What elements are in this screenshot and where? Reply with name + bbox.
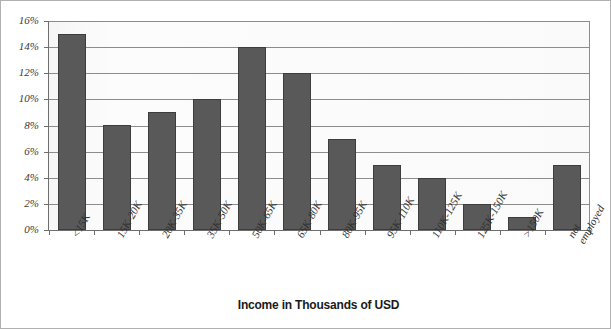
chart-frame: 0%2%4%6%8%10%12%14%16% <15K15K-20K20K-35…: [0, 0, 611, 329]
y-axis-tick-label: 0%: [1, 224, 39, 235]
y-axis-tick-label: 10%: [1, 93, 39, 104]
bar: [283, 73, 311, 230]
x-axis-title: Income in Thousands of USD: [48, 298, 589, 312]
x-axis-category-labels: <15K15K-20K20K-35K35K-50K50K-65K65K-80K8…: [48, 232, 589, 298]
y-axis-tick-label: 8%: [1, 120, 39, 131]
y-axis-tick-label: 2%: [1, 198, 39, 209]
bar-series: [49, 21, 590, 230]
y-axis-tick-label: 12%: [1, 67, 39, 78]
y-axis-tick-label: 6%: [1, 146, 39, 157]
y-axis-tick-label: 16%: [1, 15, 39, 26]
x-axis-category-label-line: employed: [575, 203, 606, 246]
y-axis-tick-label: 14%: [1, 41, 39, 52]
y-axis-tick-labels: 0%2%4%6%8%10%12%14%16%: [1, 1, 43, 329]
bar: [58, 34, 86, 230]
bar: [238, 47, 266, 230]
y-axis-tick-label: 4%: [1, 172, 39, 183]
plot-area: [48, 21, 590, 231]
